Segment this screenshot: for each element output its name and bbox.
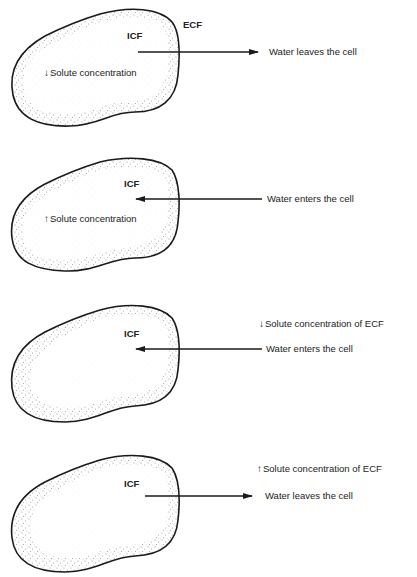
cell-3 <box>12 306 180 422</box>
outer-solute-label-3: ↓Solute concentration of ECF <box>259 318 384 329</box>
up-arrow-icon: ↑ <box>44 213 49 224</box>
ecf-label-1: ECF <box>183 19 202 30</box>
up-arrow-icon: ↑ <box>257 463 262 474</box>
icf-label-4: ICF <box>124 478 139 489</box>
cell-4 <box>12 456 180 572</box>
flow-label-1: Water leaves the cell <box>269 46 357 57</box>
down-arrow-icon: ↓ <box>44 67 49 78</box>
flow-label-3: Water enters the cell <box>266 343 353 354</box>
inner-solute-label-2: ↑Solute concentration <box>44 213 137 224</box>
icf-label-1: ICF <box>127 30 142 41</box>
flow-label-4: Water leaves the cell <box>265 490 353 501</box>
outer-solute-label-4: ↑Solute concentration of ECF <box>257 463 382 474</box>
icf-label-3: ICF <box>124 328 139 339</box>
icf-label-2: ICF <box>124 178 139 189</box>
osmosis-diagram <box>0 0 417 577</box>
down-arrow-icon: ↓ <box>259 318 264 329</box>
inner-solute-label-1: ↓Solute concentration <box>44 67 137 78</box>
flow-label-2: Water enters the cell <box>267 193 354 204</box>
